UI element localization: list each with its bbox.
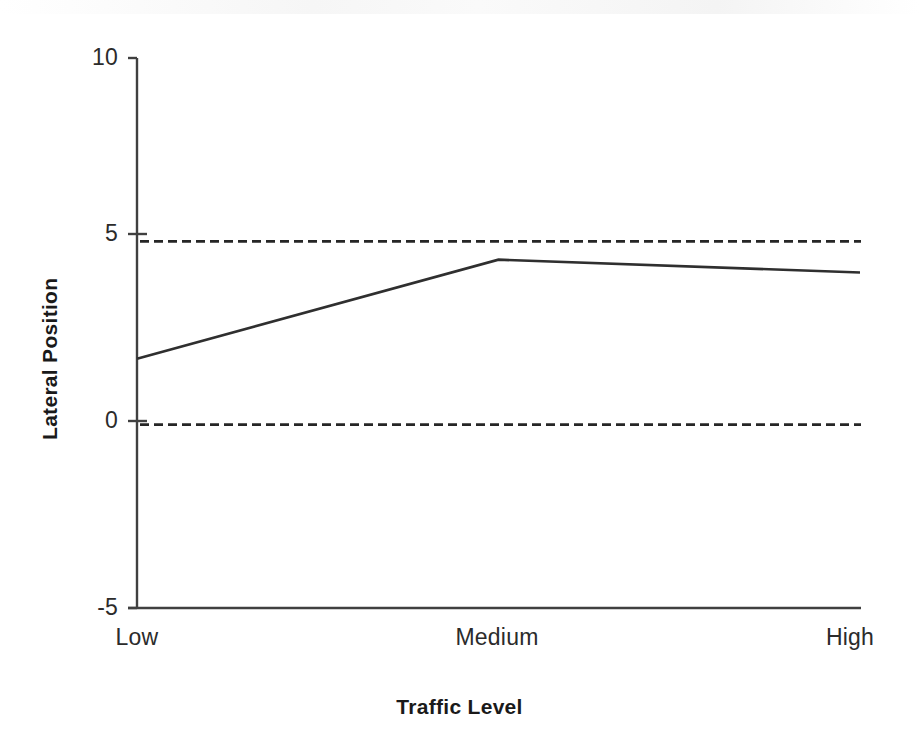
x-tick-label-low: Low <box>77 624 197 651</box>
line-chart: 10 5 0 -5 Low Medium High Lateral Positi… <box>0 0 919 750</box>
data-series-lateral-position <box>137 260 860 359</box>
y-tick-label-minus5: -5 <box>56 594 118 621</box>
x-axis-title: Traffic Level <box>0 695 919 719</box>
y-axis-title: Lateral Position <box>38 278 62 440</box>
y-tick-label-0: 0 <box>56 407 118 434</box>
y-tick-label-5: 5 <box>56 220 118 247</box>
x-tick-label-medium: Medium <box>437 624 557 651</box>
x-tick-label-high: High <box>790 624 910 651</box>
y-tick-label-10: 10 <box>56 44 118 71</box>
